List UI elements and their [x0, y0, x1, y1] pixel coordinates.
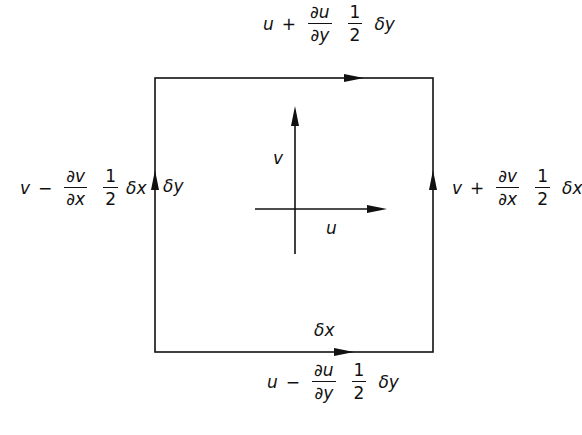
- top-op: +: [282, 14, 296, 34]
- bottom-half-fraction: 1 2: [352, 362, 367, 402]
- right-half-fraction: 1 2: [535, 168, 550, 208]
- top-delta: δy: [374, 14, 394, 34]
- bottom-velocity-expression: u − ∂u ∂y 1 2 δy: [267, 362, 399, 402]
- width-label: δx: [314, 320, 334, 340]
- top-edge-arrow-icon: [344, 74, 364, 82]
- right-velocity-expression: v + ∂v ∂x 1 2 δx: [452, 168, 582, 208]
- v-axis-label: v: [273, 148, 283, 168]
- left-partial-fraction: ∂v ∂x: [64, 168, 87, 208]
- top-base: u: [263, 14, 274, 34]
- left-edge-arrow-icon: [151, 170, 159, 190]
- left-half-fraction: 1 2: [103, 168, 118, 208]
- right-partial-fraction: ∂v ∂x: [496, 168, 519, 208]
- top-partial-fraction: ∂u ∂y: [308, 4, 332, 44]
- bottom-partial-fraction: ∂u ∂y: [312, 362, 336, 402]
- top-velocity-expression: u + ∂u ∂y 1 2 δy: [263, 4, 395, 44]
- u-axis-arrow-icon: [367, 205, 387, 213]
- bottom-edge-arrow-icon: [334, 348, 354, 356]
- v-axis-arrow-icon: [291, 106, 299, 126]
- height-label: δy: [163, 176, 183, 196]
- left-velocity-expression: v − ∂v ∂x 1 2 δx: [20, 168, 146, 208]
- u-axis-label: u: [326, 218, 337, 238]
- right-edge-arrow-icon: [429, 170, 437, 190]
- top-half-fraction: 1 2: [348, 4, 363, 44]
